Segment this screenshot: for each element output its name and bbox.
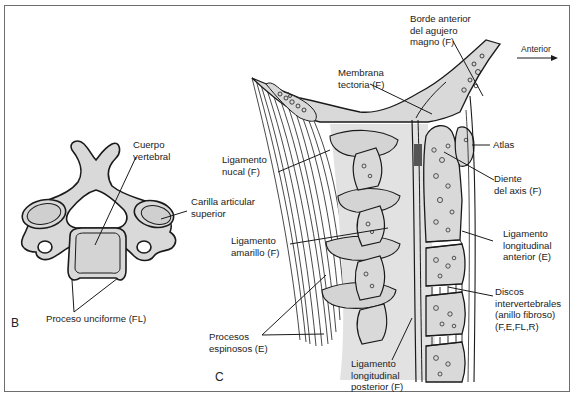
- label-borde-anterior-agujero-magno: Borde anterior del agujero magno (F): [410, 13, 471, 48]
- anatomy-illustration: [0, 0, 577, 398]
- label-ligamento-longitudinal-posterior: Ligamento longitudinal posterior (F): [351, 358, 403, 393]
- label-diente-del-axis: Diente del axis (F): [494, 173, 541, 196]
- label-ligamento-longitudinal-anterior: Ligamento longitudinal anterior (E): [503, 228, 552, 263]
- sagittal-spine-section: [252, 40, 500, 382]
- anterior-arrow: [517, 55, 558, 61]
- panel-label-b: B: [11, 316, 19, 330]
- label-membrana-tectoria: Membrana tectoria (F): [338, 67, 384, 90]
- label-carilla-articular-superior: Carilla articular superior: [191, 196, 255, 219]
- orientation-label: Anterior: [521, 44, 551, 56]
- label-proceso-unciforme: Proceso unciforme (FL): [46, 313, 146, 325]
- label-discos-intervertebrales: Discos intervertebrales (anillo fibroso)…: [495, 286, 561, 332]
- label-atlas: Atlas: [493, 139, 514, 151]
- panel-label-c: C: [215, 370, 224, 384]
- label-cuerpo-vertebral: Cuerpo vertebral: [133, 139, 170, 162]
- label-ligamento-nucal: Ligamento nucal (F): [222, 154, 267, 177]
- label-ligamento-amarillo: Ligamento amarillo (F): [231, 235, 280, 258]
- label-procesos-espinosos: Procesos espinosos (E): [209, 331, 268, 354]
